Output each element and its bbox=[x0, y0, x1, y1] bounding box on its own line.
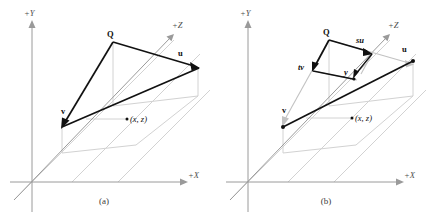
panel-b-caption: (b) bbox=[321, 196, 332, 206]
point-q-label-b: Q bbox=[323, 27, 330, 37]
base-start-dot-b bbox=[281, 125, 285, 129]
axes-b bbox=[226, 20, 404, 212]
x-axis-label-a: +X bbox=[188, 170, 200, 180]
panel-a-caption: (a) bbox=[99, 196, 109, 206]
coord-point-label-a: (x, z) bbox=[130, 114, 147, 124]
coord-point-dot-a bbox=[126, 118, 129, 121]
figure-root: +Y +X +Z Q u v (x, z) (a) bbox=[0, 0, 432, 224]
y-axis-label-b: +Y bbox=[240, 8, 252, 18]
coord-point-label-b: (x, z) bbox=[355, 113, 372, 123]
coord-point-dot-b bbox=[351, 117, 354, 120]
axes-a bbox=[10, 20, 188, 212]
vector-su-label-b: su bbox=[355, 35, 364, 45]
point-y-dot-b bbox=[352, 77, 355, 80]
y-axis-arrowhead-b bbox=[245, 20, 252, 28]
point-y-label-b: y bbox=[343, 67, 348, 77]
y-axis-label-a: +Y bbox=[24, 8, 36, 18]
grid-lines-a bbox=[14, 40, 210, 200]
point-q-label-a: Q bbox=[107, 29, 114, 39]
panel-b: +Y +X +Z bbox=[216, 0, 432, 224]
vector-v-label-b: v bbox=[282, 105, 287, 115]
vector-tv-label-b: tv bbox=[298, 62, 304, 72]
x-axis-label-b: +X bbox=[404, 170, 416, 180]
base-end-dot-b bbox=[411, 59, 415, 63]
vector-tv-arrowhead-b bbox=[312, 62, 319, 73]
grid-lines-b bbox=[230, 40, 426, 200]
z-axis-label-b: +Z bbox=[388, 20, 399, 30]
ghost-vectors-b bbox=[282, 40, 414, 127]
x-axis-arrowhead-b bbox=[396, 179, 404, 186]
z-axis-label-a: +Z bbox=[172, 20, 183, 30]
vector-u-label-b: u bbox=[402, 44, 407, 54]
vector-tv-shaft-b bbox=[315, 40, 329, 66]
vector-u-label-a: u bbox=[178, 48, 183, 58]
x-axis-arrowhead bbox=[180, 179, 188, 186]
y-axis-arrowhead bbox=[29, 20, 36, 28]
panel-a: +Y +X +Z Q u v (x, z) (a) bbox=[0, 0, 216, 224]
vector-v-label-a: v bbox=[61, 106, 66, 116]
vector-v-shaft-a bbox=[65, 42, 113, 122]
